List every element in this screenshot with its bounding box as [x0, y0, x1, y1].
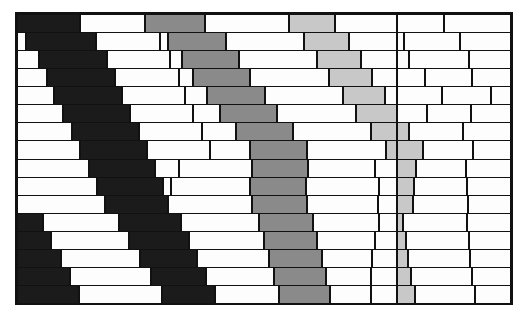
brick-r10-c5-dark [250, 177, 306, 197]
brick-r16-c2-white [79, 285, 162, 305]
brick-r9-c6-white [308, 159, 375, 179]
brick-r10-c3-white [163, 177, 171, 197]
brick-r5-c7-light [343, 86, 385, 106]
brick-r2-c8-white [349, 32, 397, 52]
brick-r6-c3-white [130, 104, 193, 124]
brick-r9-c2-black [89, 159, 155, 179]
brick-r2-c10-white [404, 32, 460, 52]
brick-r2-c2-black [26, 32, 96, 52]
brick-r2-c1-white [17, 32, 26, 52]
brick-r14-c9-white [408, 249, 470, 269]
brick-r6-c5-dark [220, 104, 277, 124]
brick-r8-c10-white [473, 140, 511, 160]
brick-r8-c1-white [17, 140, 80, 160]
brick-r5-c3-white [122, 86, 185, 106]
brick-r12-c7-white [379, 213, 397, 233]
brick-r4-c4-white [179, 68, 193, 88]
brick-r9-c5-dark [252, 159, 308, 179]
brick-r6-c4-white [193, 104, 220, 124]
brick-r10-c7-white [379, 177, 397, 197]
brick-r15-c8-light [397, 267, 411, 287]
brick-r2-c6-white [226, 32, 304, 52]
brick-r1-c3-dark [145, 14, 205, 34]
brick-r15-c10-white [472, 267, 511, 287]
brick-r3-c6-white [239, 50, 317, 70]
brick-r2-c5-dark [168, 32, 226, 52]
brick-r5-c6-white [265, 86, 343, 106]
brick-r10-c10-white [467, 177, 511, 197]
brick-r8-c2-black [80, 140, 147, 160]
brick-r7-c2-black [72, 122, 139, 142]
brick-r2-c11-white [460, 32, 511, 52]
brick-r2-c3-white [96, 32, 160, 52]
brick-r5-c10-white [442, 86, 491, 106]
brick-r16-c3-black [162, 285, 215, 305]
brick-r8-c9-white [423, 140, 473, 160]
brick-r7-c10-white [463, 122, 511, 142]
brick-r16-c1-black [17, 285, 79, 305]
brick-r13-c8-light [397, 231, 406, 251]
brick-r14-c2-white [61, 249, 140, 269]
brick-r3-c3-white [107, 50, 170, 70]
brick-r5-c1-white [17, 86, 54, 106]
brick-r4-c3-white [115, 68, 179, 88]
brick-r4-c1-white [17, 68, 47, 88]
brick-r13-c2-white [51, 231, 129, 251]
brick-r2-c9-white [397, 32, 404, 52]
brick-r3-c11-white [469, 50, 511, 70]
brick-r1-c7-white [397, 14, 444, 34]
brick-r8-c8-light [397, 140, 423, 160]
brick-r10-c1-white [17, 177, 97, 197]
brick-r12-c6-white [313, 213, 379, 233]
brick-r14-c1-black [17, 249, 61, 269]
brick-r13-c6-white [317, 231, 375, 251]
brick-r3-c10-white [409, 50, 469, 70]
brick-r7-c8-light [397, 122, 409, 142]
brick-r10-c4-white [171, 177, 250, 197]
brick-r7-c1-white [17, 122, 72, 142]
brick-r8-c5-dark [250, 140, 307, 160]
brick-r15-c6-white [326, 267, 371, 287]
brick-r8-c7-light [386, 140, 397, 160]
brick-r4-c5-dark [193, 68, 250, 88]
brick-wall-canvas [17, 14, 511, 303]
brick-r12-c3-black [119, 213, 181, 233]
brick-r12-c5-dark [259, 213, 313, 233]
brick-r10-c8-light [397, 177, 414, 197]
brick-r13-c7-white [375, 231, 397, 251]
brick-r13-c1-black [17, 231, 51, 251]
brick-r16-c4-white [215, 285, 279, 305]
brick-r14-c8-light [397, 249, 408, 269]
brick-r5-c5-dark [207, 86, 265, 106]
brick-r10-c2-black [97, 177, 163, 197]
brick-r14-c7-white [372, 249, 397, 269]
brick-r3-c5-dark [182, 50, 239, 70]
brick-r3-c1-white [17, 50, 39, 70]
brick-r9-c3-white [155, 159, 179, 179]
brick-r7-c5-dark [236, 122, 293, 142]
brick-r13-c4-white [189, 231, 264, 251]
brick-r14-c3-black [140, 249, 197, 269]
brick-r4-c11-white [472, 68, 511, 88]
brick-r4-c6-white [250, 68, 329, 88]
brick-r15-c2-white [70, 267, 151, 287]
brick-r15-c9-white [411, 267, 472, 287]
brick-r10-c6-white [306, 177, 379, 197]
brick-r9-c4-white [179, 159, 252, 179]
brick-r11-c3-white [168, 195, 252, 215]
brick-r5-c11-white [491, 86, 511, 106]
brick-r11-c5-white [307, 195, 378, 215]
brick-r1-c1-black [17, 14, 80, 34]
brick-r15-c5-dark [274, 267, 326, 287]
brick-r12-c4-white [181, 213, 259, 233]
brick-r1-c8-white [444, 14, 511, 34]
brick-r11-c2-black [105, 195, 168, 215]
brick-r16-c10-white [475, 285, 511, 305]
brick-r5-c2-black [54, 86, 122, 106]
brick-r15-c4-white [206, 267, 274, 287]
brick-r16-c6-white [330, 285, 371, 305]
brick-r16-c8-light [397, 285, 415, 305]
brick-r1-c5-light [289, 14, 335, 34]
brick-r6-c1-white [17, 104, 63, 124]
brick-r15-c3-black [151, 267, 206, 287]
